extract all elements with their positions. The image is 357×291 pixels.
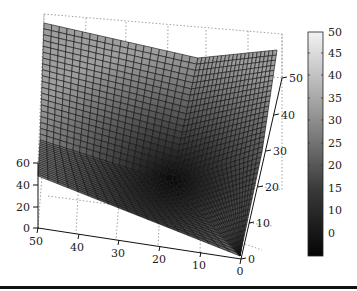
colorbar-tick: 25 — [328, 137, 342, 150]
colorbar-tick: 45 — [328, 47, 342, 60]
x-tick: 10 — [192, 259, 206, 272]
y-tick: 50 — [289, 72, 303, 85]
x-tick: 0 — [237, 265, 244, 278]
x-tick: 20 — [152, 253, 166, 266]
z-tick: 60 — [16, 157, 30, 170]
surface-plot: 60 40 20 0 50 40 30 20 10 0 0 10 20 30 4… — [0, 0, 357, 291]
colorbar-tick: 0 — [328, 227, 335, 240]
z-tick: 40 — [16, 179, 30, 192]
colorbar-tick: 30 — [328, 114, 342, 127]
x-tick: 50 — [29, 235, 43, 248]
surface-mesh — [38, 23, 277, 256]
colorbar-tick: 35 — [328, 92, 342, 105]
colorbar: 50 45 40 35 30 25 20 15 10 0 — [308, 26, 342, 256]
z-tick: 20 — [16, 201, 30, 214]
y-tick: 40 — [281, 109, 295, 122]
x-tick: 30 — [111, 247, 125, 260]
z-tick-labels: 60 40 20 0 — [16, 157, 30, 235]
x-tick: 40 — [70, 241, 84, 254]
colorbar-tick: 40 — [328, 69, 342, 82]
colorbar-tick: 15 — [328, 182, 342, 195]
z-tick: 0 — [23, 222, 30, 235]
bottom-rule — [0, 286, 357, 289]
z-axis — [33, 163, 38, 229]
y-tick: 30 — [273, 145, 287, 158]
colorbar-tick: 50 — [328, 26, 342, 39]
colorbar-tick: 10 — [328, 204, 342, 217]
colorbar-tick: 20 — [328, 159, 342, 172]
y-tick: 20 — [265, 181, 279, 194]
y-tick: 10 — [256, 217, 270, 230]
y-tick: 0 — [248, 253, 255, 266]
